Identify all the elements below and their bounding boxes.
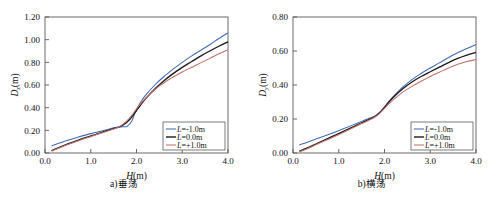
x-tick-label: 1.0	[333, 156, 345, 166]
panel-caption-b: b)横荡	[248, 176, 496, 190]
x-tick-label: 3.0	[177, 156, 189, 166]
legend-label-2: L=+1.0m	[424, 141, 455, 150]
x-tick-label: 2.0	[379, 156, 391, 166]
x-tick-label: 0.0	[287, 156, 299, 166]
y-tick-label: 0.20	[24, 126, 40, 136]
y-tick-label: 0.40	[272, 80, 288, 90]
sway-chart-svg: 0.000.200.400.600.800.01.02.03.04.0H(m)D…	[248, 0, 496, 205]
y-axis-symbol: D	[258, 90, 268, 98]
panel-caption-a: a)垂荡	[0, 176, 248, 190]
y-tick-label: 0.00	[272, 148, 288, 158]
y-tick-label: 0.80	[24, 58, 40, 68]
chart-panel-sway: 0.000.200.400.600.800.01.02.03.04.0H(m)D…	[248, 0, 496, 205]
x-tick-label: 2.0	[131, 156, 143, 166]
figure-container: 0.000.200.400.600.801.001.200.01.02.03.0…	[0, 0, 496, 205]
y-axis-unit: (m)	[10, 73, 21, 87]
y-axis-symbol: D	[10, 90, 20, 98]
y-tick-label: 1.20	[24, 12, 40, 22]
legend-value: =+1.0m	[429, 141, 455, 150]
legend-value: =+1.0m	[181, 141, 207, 150]
legend-label-2: L=+1.0m	[176, 141, 207, 150]
x-tick-label: 4.0	[222, 156, 234, 166]
y-tick-label: 0.60	[272, 46, 288, 56]
heave-chart-svg: 0.000.200.400.600.801.001.200.01.02.03.0…	[0, 0, 248, 205]
x-tick-label: 3.0	[425, 156, 437, 166]
y-axis-title: Dy(m)	[258, 73, 269, 97]
y-axis-unit: (m)	[258, 73, 269, 87]
y-tick-label: 1.00	[24, 35, 40, 45]
chart-panel-heave: 0.000.200.400.600.801.001.200.01.02.03.0…	[0, 0, 248, 205]
y-tick-label: 0.20	[272, 114, 288, 124]
x-tick-label: 0.0	[39, 156, 51, 166]
y-tick-label: 0.00	[24, 148, 40, 158]
y-axis-title: Dz(m)	[10, 73, 21, 97]
y-tick-label: 0.60	[24, 80, 40, 90]
y-tick-label: 0.80	[272, 12, 288, 22]
x-tick-label: 4.0	[470, 156, 482, 166]
y-tick-label: 0.40	[24, 103, 40, 113]
x-tick-label: 1.0	[85, 156, 97, 166]
